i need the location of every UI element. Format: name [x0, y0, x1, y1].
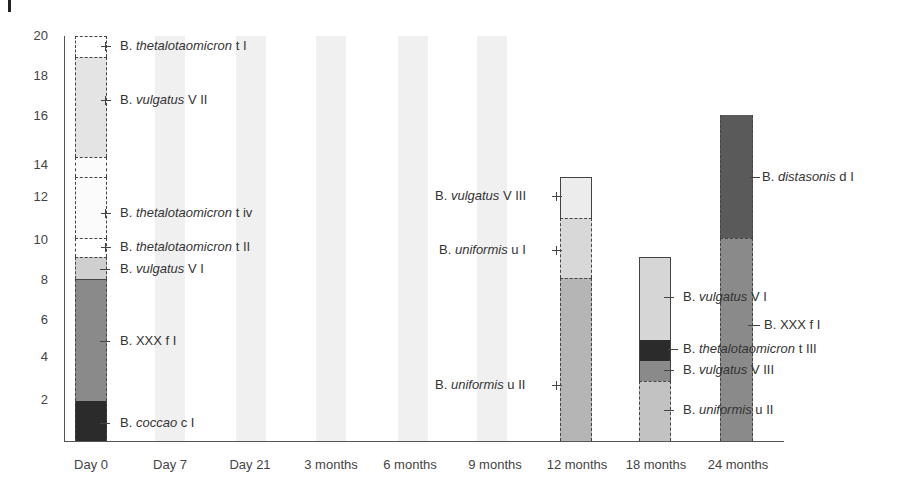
stripe-6months	[398, 36, 428, 441]
label-d0-thetalotaomicron-tII: B. thetalotaomicron t II	[120, 240, 250, 254]
species: distasonis	[778, 169, 836, 184]
species: thetalotaomicron	[136, 205, 232, 220]
y-tick-label: 4	[20, 350, 48, 364]
label-tick	[664, 370, 674, 371]
strain: V I	[188, 261, 204, 276]
species: uniformis	[699, 402, 752, 417]
label-tick	[750, 177, 760, 178]
x-axis	[64, 441, 784, 442]
strain: t III	[799, 341, 817, 356]
segment-vulgatus-VI	[75, 257, 107, 279]
x-label-day0: Day 0	[74, 457, 108, 472]
species: vulgatus	[699, 289, 747, 304]
bar-12months	[560, 177, 592, 441]
label-d0-vulgatus-VII: B. vulgatus V II	[120, 93, 207, 107]
label-tick	[552, 250, 562, 251]
strain: V III	[503, 188, 526, 203]
label-d0-thetalotaomicron-tiv: B. thetalotaomicron t iv	[120, 206, 252, 220]
strain: t II	[236, 239, 250, 254]
label-tick	[100, 269, 110, 270]
bar-24months	[720, 115, 753, 441]
y-tick-label: 18	[20, 69, 48, 83]
segment-uniformis-uI	[560, 218, 592, 278]
label-m12-uniformis-uII: B. uniformis u II	[435, 378, 525, 392]
genus: B.	[683, 289, 695, 304]
strain: V III	[751, 362, 774, 377]
label-tick	[101, 100, 111, 101]
genus: B.	[439, 242, 451, 257]
segment-thetalotaomicron-tiv	[75, 177, 107, 238]
label-tick	[100, 341, 110, 342]
segment-vulgatus-VI	[639, 257, 671, 341]
genus: B.	[120, 239, 132, 254]
segment-coccao-cI	[75, 401, 107, 441]
species: vulgatus	[451, 188, 499, 203]
y-tick-label: 14	[20, 158, 48, 172]
x-label-9months: 9 months	[468, 457, 521, 472]
genus: B.	[683, 402, 695, 417]
strain: u II	[507, 377, 525, 392]
segment-unlabeled	[75, 157, 107, 177]
x-label-day21: Day 21	[229, 457, 270, 472]
x-label-12months: 12 months	[547, 457, 608, 472]
x-label-3months: 3 months	[304, 457, 357, 472]
genus: B.	[683, 362, 695, 377]
species: thetalotaomicron	[699, 341, 795, 356]
label-m18-thetalotaomicron-tIII: B. thetalotaomicron t III	[683, 342, 817, 356]
label-m18-uniformis-uII: B. uniformis u II	[683, 403, 773, 417]
segment-vulgatus-VIII	[560, 177, 592, 219]
label-tick	[101, 46, 111, 47]
genus: B.	[120, 38, 132, 53]
strain: t I	[236, 38, 247, 53]
segment-vulgatus-VII	[75, 57, 107, 157]
y-tick-label: 10	[20, 233, 48, 247]
segment-uniformis-uII	[639, 381, 671, 441]
species: vulgatus	[136, 261, 184, 276]
genus: B.	[435, 188, 447, 203]
y-tick-label: 20	[20, 29, 48, 43]
x-label-24months: 24 months	[708, 457, 769, 472]
label-tick	[668, 349, 678, 350]
label-d0-coccao-cI: B. coccao c I	[120, 416, 194, 430]
genus: B.	[120, 415, 132, 430]
label-tick	[101, 213, 111, 214]
label-tick	[748, 325, 760, 326]
label-m24-distasonis-dI: B. distasonis d I	[762, 170, 854, 184]
label-m24-XXX-fI: B. XXX f I	[764, 318, 820, 332]
genus: B.	[120, 92, 132, 107]
x-label-6months: 6 months	[383, 457, 436, 472]
genus: B.	[683, 341, 695, 356]
panel-corner-mark	[8, 0, 11, 12]
segment-XXX-fI	[75, 279, 107, 401]
bar-day0	[75, 36, 107, 441]
y-tick-label: 16	[20, 109, 48, 123]
genus: B.	[435, 377, 447, 392]
y-tick-label: 2	[20, 393, 48, 407]
label-d0-XXX-fI: B. XXX f I	[120, 334, 176, 348]
bar-18months	[639, 257, 671, 441]
species: uniformis	[455, 242, 508, 257]
stripe-3months	[316, 36, 346, 441]
label-tick	[664, 410, 674, 411]
strain: u I	[511, 242, 525, 257]
x-label-18months: 18 months	[626, 457, 687, 472]
species: uniformis	[451, 377, 504, 392]
label-tick	[100, 423, 110, 424]
label-m12-vulgatus-VIII: B. vulgatus V III	[435, 189, 526, 203]
genus: B.	[120, 261, 132, 276]
species: vulgatus	[136, 92, 184, 107]
segment-distasonis-dI	[720, 115, 753, 238]
label-tick	[552, 196, 562, 197]
y-tick-label: 6	[20, 313, 48, 327]
species: vulgatus	[699, 362, 747, 377]
strain: d I	[839, 169, 853, 184]
y-tick-label: 8	[20, 273, 48, 287]
label-m18-vulgatus-VIII: B. vulgatus V III	[683, 363, 774, 377]
label-d0-vulgatus-VI: B. vulgatus V I	[120, 262, 204, 276]
strain: u II	[755, 402, 773, 417]
label-m18-vulgatus-VI: B. vulgatus V I	[683, 290, 767, 304]
genus: B.	[120, 205, 132, 220]
label-m12-uniformis-uI: B. uniformis u I	[439, 243, 526, 257]
strain: V I	[751, 289, 767, 304]
label-tick	[552, 385, 562, 386]
